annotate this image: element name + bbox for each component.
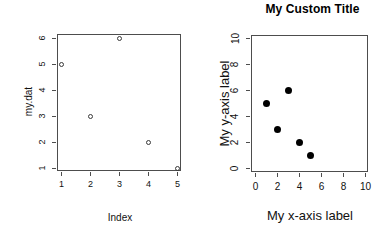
right-x-tick-0 bbox=[255, 173, 256, 177]
left-y-tick-6 bbox=[52, 38, 56, 39]
left-y-ticklabel-3: 3 bbox=[37, 110, 47, 122]
left-x-tick-3 bbox=[119, 172, 120, 176]
right-x-tick-6 bbox=[321, 173, 322, 177]
left-x-ticklabel-2: 2 bbox=[84, 179, 97, 189]
left-y-axis-title: my.dat bbox=[23, 80, 34, 124]
left-plot-box bbox=[57, 34, 181, 171]
left-x-axis-title: Index bbox=[89, 212, 151, 223]
left-x-tick-4 bbox=[148, 172, 149, 176]
left-x-tick-2 bbox=[90, 172, 91, 176]
right-y-tick-2 bbox=[246, 142, 250, 143]
left-y-ticklabel-4: 4 bbox=[37, 84, 47, 96]
left-y-ticklabel-1: 1 bbox=[37, 162, 47, 174]
right-x-ticklabel-10: 10 bbox=[356, 181, 375, 192]
left-y-tick-5 bbox=[52, 64, 56, 65]
left-y-ticklabel-6: 6 bbox=[37, 32, 47, 44]
left-x-ticklabel-3: 3 bbox=[113, 179, 126, 189]
left-x-tick-1 bbox=[61, 172, 62, 176]
right-y-tick-0 bbox=[246, 168, 250, 169]
left-x-ticklabel-4: 4 bbox=[142, 179, 155, 189]
left-data-point bbox=[88, 114, 93, 119]
left-data-point bbox=[117, 36, 122, 41]
right-data-point bbox=[307, 152, 314, 159]
right-data-point bbox=[296, 139, 303, 146]
right-x-ticklabel-6: 6 bbox=[314, 181, 329, 192]
right-x-ticklabel-0: 0 bbox=[248, 181, 263, 192]
right-plot-title: My Custom Title bbox=[235, 2, 390, 16]
right-data-point bbox=[274, 126, 281, 133]
right-x-tick-10 bbox=[365, 173, 366, 177]
right-y-axis-title: My y-axis label bbox=[217, 34, 232, 174]
right-data-point bbox=[263, 100, 270, 107]
left-y-ticklabel-2: 2 bbox=[37, 136, 47, 148]
right-y-tick-8 bbox=[246, 64, 250, 65]
right-y-tick-6 bbox=[246, 90, 250, 91]
right-x-ticklabel-2: 2 bbox=[270, 181, 285, 192]
right-x-tick-4 bbox=[299, 173, 300, 177]
right-x-tick-8 bbox=[343, 173, 344, 177]
left-y-tick-2 bbox=[52, 142, 56, 143]
right-plot-panel: My Custom Title 10 8 6 4 2 0 My y-axis l… bbox=[195, 0, 390, 240]
left-y-ticklabel-5: 5 bbox=[37, 58, 47, 70]
left-y-tick-4 bbox=[52, 90, 56, 91]
left-data-point bbox=[146, 140, 151, 145]
left-y-tick-3 bbox=[52, 116, 56, 117]
left-y-tick-1 bbox=[52, 168, 56, 169]
left-data-point bbox=[59, 62, 64, 67]
left-x-ticklabel-1: 1 bbox=[55, 179, 68, 189]
right-x-ticklabel-8: 8 bbox=[336, 181, 351, 192]
right-data-point bbox=[285, 87, 292, 94]
right-x-axis-title: My x-axis label bbox=[245, 208, 375, 223]
left-data-point bbox=[175, 166, 180, 171]
right-y-tick-10 bbox=[246, 38, 250, 39]
right-y-tick-4 bbox=[246, 116, 250, 117]
left-x-tick-5 bbox=[177, 172, 178, 176]
right-x-ticklabel-4: 4 bbox=[292, 181, 307, 192]
left-x-ticklabel-5: 5 bbox=[171, 179, 184, 189]
right-x-tick-2 bbox=[277, 173, 278, 177]
left-plot-panel: 6 5 4 3 2 1 my.dat 1 2 3 4 5 Index bbox=[0, 0, 195, 240]
